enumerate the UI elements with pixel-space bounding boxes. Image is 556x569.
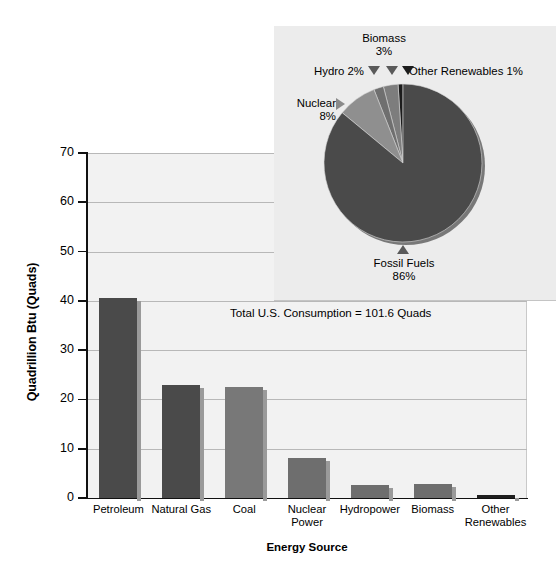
- pie-label-biomass-name: Biomass: [314, 32, 454, 45]
- bar-shadow: [137, 301, 141, 501]
- bar-shadow: [389, 488, 393, 501]
- gridline-10: [87, 449, 527, 450]
- y-tick-label-70: 70: [30, 145, 74, 159]
- y-tick-30: [78, 349, 87, 351]
- gridline-30: [87, 350, 527, 351]
- y-tick-label-text: 50: [34, 244, 74, 258]
- pie-slices-group: [324, 84, 482, 242]
- pie-label-biomass: Biomass 3%: [314, 32, 454, 58]
- bar-shadow: [263, 390, 267, 501]
- bar-hydropower[interactable]: [351, 485, 389, 498]
- total-consumption-annotation: Total U.S. Consumption = 101.6 Quads: [230, 306, 431, 319]
- y-axis-title: Quadrillion Btu (Quads): [25, 212, 39, 452]
- pie-label-hydro: Hydro 2%: [234, 65, 364, 78]
- x-axis-title: Energy Source: [87, 541, 527, 553]
- y-tick-0: [78, 497, 87, 499]
- bar-other-renewables[interactable]: [477, 495, 515, 498]
- y-tick-label-text: 20: [34, 391, 74, 405]
- pie-chart-inset-panel: Biomass 3% Hydro 2% Other Renewables 1% …: [274, 26, 556, 301]
- y-tick-60: [78, 201, 87, 203]
- y-tick-label-0: 0: [30, 490, 74, 504]
- y-tick-50: [78, 251, 87, 253]
- pie-label-fossil-name: Fossil Fuels: [340, 257, 468, 270]
- pie-label-other-renewables: Other Renewables 1%: [409, 65, 523, 78]
- x-label-line: Power: [265, 516, 349, 529]
- y-tick-40: [78, 300, 87, 302]
- y-tick-label-text: 30: [34, 342, 74, 356]
- y-tick-label-text: 70: [34, 145, 74, 159]
- bar-biomass[interactable]: [414, 484, 452, 498]
- y-tick-label-60: 60: [30, 194, 74, 208]
- y-tick-20: [78, 399, 87, 401]
- pie-label-nuclear: Nuclear 8%: [196, 97, 336, 123]
- biomass-pointer-icon: [386, 66, 398, 75]
- other-renewables-pointer-icon: [402, 66, 414, 75]
- y-tick-10: [78, 448, 87, 450]
- energy-consumption-figure: 706050403020100 Quadrillion Btu (Quads) …: [0, 0, 556, 569]
- pie-label-nuclear-name: Nuclear: [196, 97, 336, 110]
- gridline-20: [87, 399, 527, 400]
- nuclear-pointer-icon: [336, 98, 345, 110]
- bar-nuclear-power[interactable]: [288, 458, 326, 498]
- bar-shadow: [326, 461, 330, 501]
- bar-shadow: [515, 498, 519, 501]
- pie-label-fossil-value: 86%: [340, 270, 468, 283]
- bar-petroleum[interactable]: [99, 298, 137, 498]
- pie-label-nuclear-value: 8%: [196, 110, 336, 123]
- y-tick-label-text: 60: [34, 194, 74, 208]
- pie-label-fossil-fuels: Fossil Fuels 86%: [340, 257, 468, 283]
- y-tick-label-text: 0: [34, 490, 74, 504]
- x-label-6: OtherRenewables: [454, 503, 538, 529]
- bar-coal[interactable]: [225, 387, 263, 498]
- x-label-line: Renewables: [454, 516, 538, 529]
- bar-shadow: [200, 388, 204, 501]
- pie-label-biomass-value: 3%: [314, 45, 454, 58]
- x-label-line: Other: [454, 503, 538, 516]
- bar-natural-gas[interactable]: [162, 385, 200, 498]
- y-tick-label-text: 40: [34, 293, 74, 307]
- y-tick-70: [78, 152, 87, 154]
- bar-shadow: [452, 487, 456, 501]
- y-tick-label-text: 10: [34, 441, 74, 455]
- hydro-pointer-icon: [368, 66, 380, 75]
- fossil-fuels-pointer-icon: [397, 245, 409, 254]
